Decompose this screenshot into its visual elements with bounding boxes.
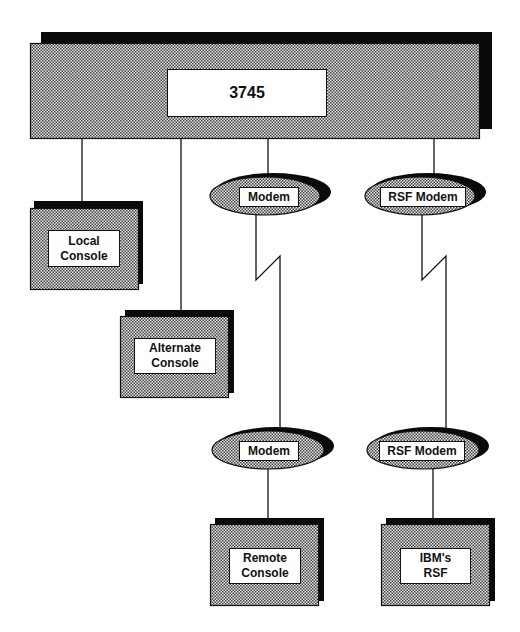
ibm-rsf-label: IBM's RSF <box>400 548 471 584</box>
remote-console-label: Remote Console <box>229 548 301 584</box>
lower-modem-label-text: Modem <box>248 444 290 459</box>
upper-modem-label: Modem <box>239 187 299 207</box>
lower-modem-label: Modem <box>239 441 299 461</box>
ibm-rsf-line2: RSF <box>424 566 448 581</box>
local-console-line1: Local <box>68 234 99 249</box>
alternate-console-label: Alternate Console <box>134 338 216 374</box>
upper-modem-label-text: Modem <box>248 190 290 205</box>
local-console-line2: Console <box>60 249 107 264</box>
alternate-console-line1: Alternate <box>149 341 201 356</box>
remote-console-line1: Remote <box>243 551 287 566</box>
3745-label-text: 3745 <box>229 83 265 103</box>
telephone-line-rsf-modem <box>422 215 446 429</box>
3745-label: 3745 <box>167 69 327 117</box>
lower-rsf-modem-label-text: RSF Modem <box>387 444 456 459</box>
alternate-console-line2: Console <box>151 356 198 371</box>
local-console-label: Local Console <box>48 230 120 267</box>
upper-rsf-modem-label-text: RSF Modem <box>388 190 457 205</box>
lower-rsf-modem-label: RSF Modem <box>379 441 465 461</box>
telephone-line-modem <box>256 215 280 429</box>
remote-console-line2: Console <box>241 566 288 581</box>
ibm-rsf-line1: IBM's <box>420 551 452 566</box>
upper-rsf-modem-label: RSF Modem <box>380 187 466 207</box>
